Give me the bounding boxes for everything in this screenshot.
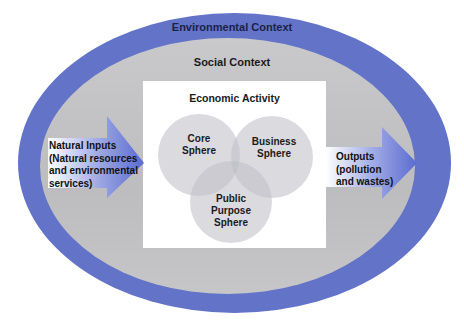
outputs-line1: Outputs xyxy=(336,151,393,164)
natural-inputs-text: Natural Inputs (Natural resources and en… xyxy=(49,140,138,190)
outputs-line2: (pollution xyxy=(336,164,393,177)
inputs-line1: Natural Inputs xyxy=(49,140,138,153)
inputs-line4: services) xyxy=(49,178,138,191)
outputs-line3: and wastes) xyxy=(336,176,393,189)
inputs-line3: and environmental xyxy=(49,165,138,178)
inputs-line2: (Natural resources xyxy=(49,153,138,166)
outputs-text: Outputs (pollution and wastes) xyxy=(336,151,393,189)
